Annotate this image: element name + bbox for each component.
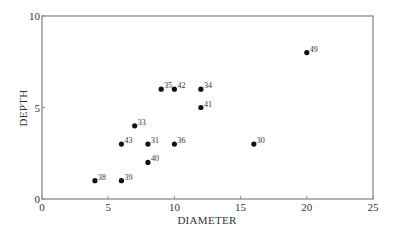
data-point: 31 — [145, 136, 159, 147]
point-marker — [172, 87, 177, 92]
x-tick-label: 15 — [235, 201, 247, 213]
data-point: 43 — [119, 136, 133, 147]
x-tick-label: 5 — [105, 201, 111, 213]
point-marker — [304, 50, 309, 55]
x-axis-label: DIAMETER — [177, 214, 237, 226]
data-point: 30 — [251, 136, 265, 147]
data-point: 41 — [198, 100, 212, 111]
data-points: 38394333314036354234413049 — [92, 45, 317, 184]
point-marker — [251, 142, 256, 147]
point-label: 41 — [204, 100, 212, 109]
point-label: 43 — [124, 136, 132, 145]
data-point: 42 — [172, 81, 186, 92]
data-point: 49 — [304, 45, 318, 56]
data-point: 34 — [198, 81, 212, 92]
y-tick-label: 0 — [35, 193, 41, 205]
y-tick-label: 5 — [35, 102, 41, 114]
x-tick-label: 10 — [169, 201, 181, 213]
scatter-chart: 0510152025 0510 383943333140363542344130… — [0, 0, 396, 235]
point-label: 38 — [98, 173, 106, 182]
point-label: 42 — [177, 81, 185, 90]
point-label: 33 — [138, 118, 146, 127]
point-marker — [132, 123, 137, 128]
point-marker — [145, 142, 150, 147]
point-label: 31 — [151, 136, 159, 145]
point-marker — [172, 142, 177, 147]
point-label: 30 — [257, 136, 265, 145]
point-label: 40 — [151, 154, 159, 163]
x-tick-label: 0 — [39, 201, 45, 213]
point-label: 34 — [204, 81, 212, 90]
data-point: 38 — [92, 173, 106, 184]
point-marker — [92, 178, 97, 183]
x-tick-label: 20 — [301, 201, 313, 213]
point-marker — [145, 160, 150, 165]
point-marker — [119, 178, 124, 183]
point-marker — [198, 105, 203, 110]
point-label: 36 — [177, 136, 185, 145]
point-label: 39 — [124, 173, 132, 182]
data-point: 35 — [159, 81, 173, 92]
data-point: 33 — [132, 118, 146, 129]
x-tick-label: 25 — [368, 201, 380, 213]
y-tick-label: 10 — [29, 10, 41, 22]
data-point: 39 — [119, 173, 133, 184]
point-marker — [159, 87, 164, 92]
point-label: 49 — [310, 45, 318, 54]
y-axis-label: DEPTH — [17, 90, 29, 127]
point-label: 35 — [164, 81, 172, 90]
point-marker — [119, 142, 124, 147]
data-point: 40 — [145, 154, 159, 165]
point-marker — [198, 87, 203, 92]
data-point: 36 — [172, 136, 186, 147]
